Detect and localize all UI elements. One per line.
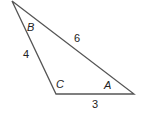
- angle-label-a: A: [103, 79, 111, 91]
- side-label-ca: 3: [92, 98, 98, 110]
- triangle-shape: [12, 1, 134, 94]
- side-label-ba: 6: [74, 32, 80, 44]
- angle-label-b: B: [27, 21, 34, 33]
- triangle-diagram: B C A 4 6 3: [0, 0, 145, 115]
- angle-label-c: C: [56, 78, 64, 90]
- side-label-bc: 4: [23, 48, 29, 60]
